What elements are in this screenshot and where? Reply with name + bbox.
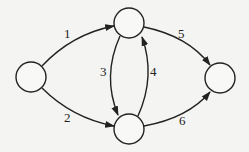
edge-5 xyxy=(144,27,210,65)
node-top xyxy=(114,8,144,38)
node-source xyxy=(16,62,46,92)
edge-label-6: 6 xyxy=(179,113,186,128)
edge-3 xyxy=(110,36,120,115)
edge-label-4: 4 xyxy=(150,64,157,79)
edge-2 xyxy=(42,88,114,126)
edge-label-5: 5 xyxy=(178,26,185,41)
graph-diagram: 1 2 3 4 5 6 xyxy=(0,0,249,152)
node-bottom xyxy=(114,114,144,144)
edge-label-3: 3 xyxy=(100,64,107,79)
node-sink xyxy=(205,63,235,93)
edge-1 xyxy=(42,26,114,66)
edge-4 xyxy=(138,37,148,116)
edge-label-1: 1 xyxy=(64,26,71,41)
edge-label-2: 2 xyxy=(64,110,71,125)
edge-6 xyxy=(144,92,210,126)
